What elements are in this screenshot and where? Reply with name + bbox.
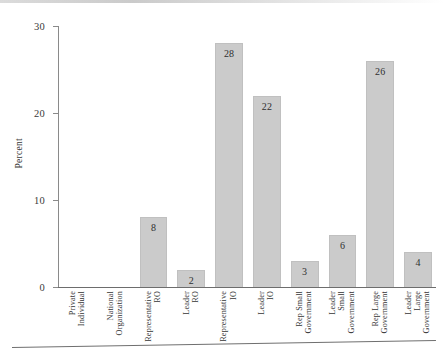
bar: 28 xyxy=(215,43,243,287)
bar: 2 xyxy=(177,270,205,287)
bar-value-label: 4 xyxy=(405,257,431,268)
bar: 6 xyxy=(329,235,357,287)
bar-value-label: 6 xyxy=(330,240,356,251)
bar-slot: 26 xyxy=(366,26,394,287)
category-label-line: Leader xyxy=(183,291,191,315)
bar-slot: 4 xyxy=(404,26,432,287)
bar-value-label: 3 xyxy=(292,266,318,277)
category-label-line: National xyxy=(107,291,115,320)
category-label-line: IO xyxy=(230,291,238,300)
category-label-line: Government xyxy=(423,291,431,333)
category-label-line: Government xyxy=(305,291,313,333)
bar: 3 xyxy=(291,261,319,287)
bar: 4 xyxy=(404,252,432,287)
category-label: RepresentativeIO xyxy=(210,291,248,342)
category-label: Rep SmallGovernment xyxy=(286,291,324,333)
bar-slot: 28 xyxy=(215,26,243,287)
bar-slot: 6 xyxy=(329,26,357,287)
y-tick-label-0: 0 xyxy=(40,282,45,293)
y-tick-10: 10 xyxy=(53,200,58,201)
category-label-line: Leader xyxy=(258,291,266,315)
y-tick-30: 30 xyxy=(53,26,58,27)
bar-slot: 8 xyxy=(140,26,168,287)
bar-value-label: 22 xyxy=(254,101,280,112)
category-label-line: Rep Small xyxy=(296,291,304,327)
bar-slot: 22 xyxy=(253,26,281,287)
y-tick-0: 0 xyxy=(53,287,58,288)
category-label: LeaderSmallGovernment xyxy=(324,291,362,333)
bar-value-label: 28 xyxy=(216,48,242,59)
category-label-line: Individual xyxy=(78,291,86,326)
category-label-line: Organization xyxy=(116,291,124,335)
category-label-line: Leader xyxy=(405,291,413,315)
category-label-line: Large xyxy=(414,291,422,311)
category-label-line: Private xyxy=(69,291,77,315)
category-label-line: RO xyxy=(154,291,162,303)
y-tick-label-20: 20 xyxy=(34,108,45,119)
x-axis-line xyxy=(58,287,436,288)
category-label: PrivateIndividual xyxy=(59,291,97,326)
bar: 26 xyxy=(366,61,394,287)
category-label: LeaderIO xyxy=(248,291,286,315)
bar-value-label: 8 xyxy=(141,222,167,233)
category-label-line: Government xyxy=(381,291,389,333)
bar-value-label: 26 xyxy=(367,66,393,77)
y-tick-label-10: 10 xyxy=(34,195,45,206)
category-label-line: Representative xyxy=(145,291,153,342)
bar-slot: 3 xyxy=(291,26,319,287)
category-label-line: Rep Large xyxy=(372,291,380,327)
scan-top-edge xyxy=(0,0,443,3)
category-label: RepresentativeRO xyxy=(135,291,173,342)
category-label: Rep LargeGovernment xyxy=(361,291,399,333)
bar: 8 xyxy=(140,217,168,287)
bar-chart-figure: Percent 0102030 82282236264 PrivateIndiv… xyxy=(0,0,443,361)
bars-group: 82282236264 xyxy=(59,26,436,287)
category-label-line: Government xyxy=(348,291,356,333)
category-label-line: Leader xyxy=(329,291,337,315)
bar: 22 xyxy=(253,96,281,287)
bar-value-label: 2 xyxy=(178,275,204,286)
y-axis-title: Percent xyxy=(14,138,24,169)
y-tick-20: 20 xyxy=(53,113,58,114)
bar-slot xyxy=(64,26,92,287)
category-label-line: Representative xyxy=(220,291,228,342)
category-label-line: IO xyxy=(267,291,275,300)
category-label: NationalOrganization xyxy=(97,291,135,335)
category-label-line: RO xyxy=(192,291,200,303)
category-label: LeaderRO xyxy=(172,291,210,315)
y-tick-label-30: 30 xyxy=(34,21,45,32)
bar-slot: 2 xyxy=(177,26,205,287)
category-label-line: Small xyxy=(338,291,346,311)
plot-area: Percent 0102030 82282236264 xyxy=(58,26,436,287)
bar-slot xyxy=(102,26,130,287)
category-label: LeaderLargeGovernment xyxy=(399,291,437,333)
